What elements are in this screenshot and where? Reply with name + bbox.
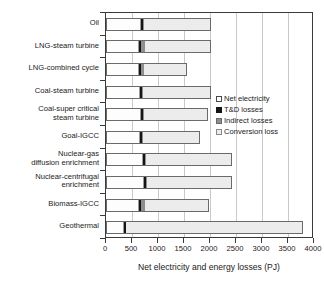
category-tick bbox=[100, 57, 105, 58]
x-tick bbox=[313, 238, 314, 243]
legend-item-0: Net electricity bbox=[216, 93, 312, 104]
category-axis-labels: OilLNG-steam turbineLNG-combined cycleCo… bbox=[0, 12, 103, 238]
bar-7 bbox=[106, 176, 232, 189]
bar-segment-0 bbox=[107, 154, 143, 165]
x-tick bbox=[209, 238, 210, 243]
legend-label: Net electricity bbox=[224, 94, 270, 104]
bar-segment-0 bbox=[107, 177, 144, 188]
x-axis-tick-labels: 05001000150020002500300035004000 bbox=[0, 244, 324, 256]
category-label-1: LNG-steam turbine bbox=[0, 42, 99, 51]
plot-area: Net electricityT&D lossesIndirect losses… bbox=[105, 12, 313, 238]
x-axis-title: Net electricity and energy losses (PJ) bbox=[105, 262, 313, 272]
legend-swatch-icon bbox=[216, 118, 222, 124]
category-label-9: Geothermal bbox=[0, 222, 99, 231]
x-tick bbox=[131, 238, 132, 243]
x-tick bbox=[261, 238, 262, 243]
bar-segment-0 bbox=[107, 87, 140, 98]
category-tick bbox=[100, 125, 105, 126]
x-tick bbox=[235, 238, 236, 243]
bar-segment-0 bbox=[107, 19, 141, 30]
legend-swatch-icon bbox=[216, 107, 222, 113]
bar-segment-0 bbox=[107, 41, 139, 52]
legend-label: T&D losses bbox=[224, 105, 263, 115]
bar-9 bbox=[106, 221, 303, 234]
category-tick bbox=[100, 170, 105, 171]
category-tick bbox=[100, 80, 105, 81]
bar-segment-3 bbox=[143, 87, 209, 98]
bar-3 bbox=[106, 86, 211, 99]
legend-item-1: T&D losses bbox=[216, 104, 312, 115]
bar-2 bbox=[106, 63, 187, 76]
bar-segment-3 bbox=[144, 109, 207, 120]
bar-segment-3 bbox=[146, 154, 231, 165]
bar-segment-3 bbox=[145, 41, 210, 52]
category-tick bbox=[100, 35, 105, 36]
legend-item-3: Conversion loss bbox=[216, 126, 312, 137]
bar-segment-3 bbox=[145, 200, 209, 211]
category-label-7: Nuclear-centrifugalenrichment bbox=[0, 173, 99, 190]
legend-swatch-icon bbox=[216, 129, 222, 135]
category-tick bbox=[100, 102, 105, 103]
bar-8 bbox=[106, 199, 209, 212]
bar-segment-0 bbox=[107, 222, 124, 233]
bar-0 bbox=[106, 18, 211, 31]
category-label-3: Coal-steam turbine bbox=[0, 87, 99, 96]
legend-swatch-icon bbox=[216, 96, 222, 102]
category-tick bbox=[100, 148, 105, 149]
category-label-8: Biomass-IGCC bbox=[0, 200, 99, 209]
bar-segment-3 bbox=[143, 132, 200, 143]
bar-4 bbox=[106, 108, 208, 121]
bar-6 bbox=[106, 153, 232, 166]
category-tick bbox=[100, 215, 105, 216]
bar-segment-3 bbox=[147, 177, 231, 188]
legend-label: Indirect losses bbox=[224, 116, 273, 126]
x-tick bbox=[105, 238, 106, 243]
bar-segment-0 bbox=[107, 200, 139, 211]
category-label-5: Goal-IGCC bbox=[0, 132, 99, 141]
bar-segment-0 bbox=[107, 64, 139, 75]
bar-segment-3 bbox=[126, 222, 302, 233]
bar-1 bbox=[106, 40, 211, 53]
category-tick bbox=[100, 193, 105, 194]
bar-segment-0 bbox=[107, 132, 140, 143]
category-label-6: Nuclear-gasdiffusion enrichment bbox=[0, 150, 99, 167]
bar-segment-3 bbox=[144, 64, 185, 75]
category-label-0: Oil bbox=[0, 19, 99, 28]
bar-5 bbox=[106, 131, 200, 144]
bar-segment-3 bbox=[144, 19, 210, 30]
category-label-2: LNG-combined cycle bbox=[0, 64, 99, 73]
bar-segment-0 bbox=[107, 109, 141, 120]
x-tick-label-8: 4000 bbox=[293, 244, 324, 254]
category-tick bbox=[100, 12, 105, 13]
x-tick bbox=[157, 238, 158, 243]
legend-item-2: Indirect losses bbox=[216, 115, 312, 126]
category-label-4: Coal-super criticalsteam turbine bbox=[0, 105, 99, 122]
x-tick bbox=[287, 238, 288, 243]
bar-chart: Net electricityT&D lossesIndirect losses… bbox=[0, 0, 324, 288]
legend-label: Conversion loss bbox=[224, 127, 278, 137]
x-tick bbox=[183, 238, 184, 243]
chart-legend: Net electricityT&D lossesIndirect losses… bbox=[216, 93, 312, 137]
